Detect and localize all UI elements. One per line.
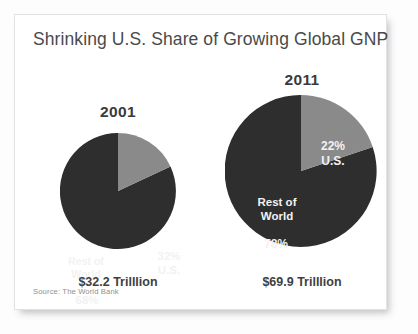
pie-chart-2011 (225, 95, 377, 247)
pie-panel-2001: 2001 32% U.S. Rest of World 68% $32.2 Tr… (45, 103, 191, 293)
page-title: Shrinking U.S. Share of Growing Global G… (33, 29, 388, 50)
pie-year-label-2011: 2011 (211, 71, 393, 89)
source-note: Source: The World Bank (33, 287, 119, 296)
pie-chart-2001 (60, 133, 176, 249)
pie-total-label-2011: $69.9 Trilllion (211, 275, 393, 289)
pie-panel-2011: 2011 22% U.S. Rest of World 78% $69.9 Tr… (211, 71, 393, 293)
pie-label-row-line1-2001: Rest of (68, 255, 104, 267)
figure-card: Shrinking U.S. Share of Growing Global G… (14, 14, 387, 310)
pie-label-us-percent-2001: 32% (157, 250, 180, 262)
pie-year-label-2001: 2001 (45, 103, 191, 121)
pie-label-us-2001: 32% U.S. (141, 249, 197, 277)
